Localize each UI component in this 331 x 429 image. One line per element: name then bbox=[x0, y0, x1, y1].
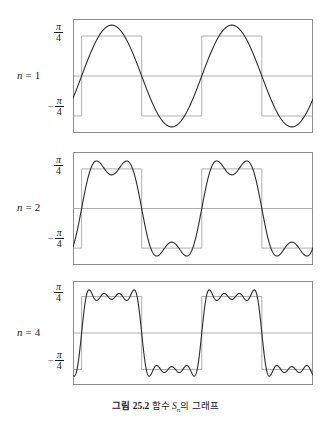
panel-n2 bbox=[73, 152, 313, 265]
caption-suffix: 의 그래프 bbox=[180, 401, 218, 411]
plot-content-n4 bbox=[73, 290, 313, 376]
fraction-denominator: 4 bbox=[55, 239, 64, 249]
fraction-numerator: π bbox=[54, 282, 63, 292]
caption-text: 함수 bbox=[152, 401, 170, 411]
fraction-denominator: 4 bbox=[55, 361, 64, 371]
fraction-numerator: π bbox=[55, 228, 64, 238]
panel-label-value: 2 bbox=[35, 201, 41, 213]
fraction-numerator: π bbox=[54, 155, 63, 165]
plot-content-n1 bbox=[73, 25, 313, 127]
fraction-pi-over-4: π 4 bbox=[54, 22, 63, 43]
fraction-pi-over-4: π 4 bbox=[55, 228, 64, 249]
plot-content-n2 bbox=[73, 161, 313, 256]
tick-negative-n2: − π 4 bbox=[48, 228, 64, 249]
fraction-denominator: 4 bbox=[54, 33, 63, 43]
minus-sign: − bbox=[48, 356, 54, 366]
caption-number: 그림 25.2 bbox=[112, 401, 149, 411]
minus-sign: − bbox=[48, 234, 54, 244]
panel-n4 bbox=[73, 281, 313, 385]
tick-positive-n2: π 4 bbox=[54, 155, 63, 176]
fraction-denominator: 4 bbox=[54, 293, 63, 303]
plot-n1 bbox=[73, 19, 313, 133]
fraction-pi-over-4: π 4 bbox=[55, 96, 64, 117]
figure-caption: 그림 25.2 함수 Sn의 그래프 bbox=[0, 398, 331, 414]
tick-negative-n1: − π 4 bbox=[48, 96, 64, 117]
figure-container: n=1 π 4 − π 4 n=2 π 4 − π bbox=[0, 0, 331, 429]
minus-sign: − bbox=[48, 102, 54, 112]
fraction-denominator: 4 bbox=[54, 166, 63, 176]
panel-label-n4: n=4 bbox=[17, 326, 40, 338]
tick-negative-n4: − π 4 bbox=[48, 350, 64, 371]
panel-label-variable: n bbox=[17, 201, 23, 213]
tick-positive-n4: π 4 bbox=[54, 282, 63, 303]
panel-label-n2: n=2 bbox=[17, 201, 40, 213]
panel-label-equals: = bbox=[23, 326, 35, 338]
fraction-numerator: π bbox=[55, 350, 64, 360]
panel-label-value: 1 bbox=[35, 69, 41, 81]
fraction-pi-over-4: π 4 bbox=[55, 350, 64, 371]
plot-n4 bbox=[73, 281, 313, 385]
fraction-denominator: 4 bbox=[55, 107, 64, 117]
tick-positive-n1: π 4 bbox=[54, 22, 63, 43]
panel-label-equals: = bbox=[23, 69, 35, 81]
plot-n2 bbox=[73, 152, 313, 265]
panel-label-variable: n bbox=[17, 69, 23, 81]
panel-n1 bbox=[73, 19, 313, 133]
fraction-numerator: π bbox=[55, 96, 64, 106]
panel-label-n1: n=1 bbox=[17, 69, 40, 81]
fraction-numerator: π bbox=[54, 22, 63, 32]
fraction-pi-over-4: π 4 bbox=[54, 282, 63, 303]
panel-label-equals: = bbox=[23, 201, 35, 213]
panel-label-value: 4 bbox=[35, 326, 41, 338]
panel-label-variable: n bbox=[17, 326, 23, 338]
fraction-pi-over-4: π 4 bbox=[54, 155, 63, 176]
